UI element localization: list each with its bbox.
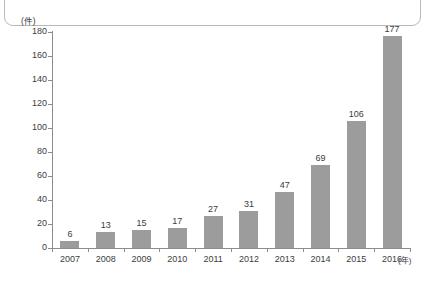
x-axis-tick-label: 2012 (239, 254, 259, 265)
bar-value-label: 106 (349, 109, 364, 120)
x-axis-tick-mark (88, 248, 89, 252)
bar-chart: (件) 020406080100120140160180 61315172731… (0, 0, 425, 282)
x-axis-tick-label: 2009 (131, 254, 151, 265)
bar[interactable] (60, 241, 79, 248)
y-axis-tick-label: 140 (32, 74, 47, 85)
y-axis-tick-label: 180 (32, 26, 47, 37)
y-axis-tick-label: 120 (32, 98, 47, 109)
y-axis-tick-mark (48, 200, 52, 201)
bar[interactable] (347, 121, 366, 248)
y-axis-tick-label: 100 (32, 122, 47, 133)
x-axis-tick-label: 2015 (346, 254, 366, 265)
y-axis-tick-label: 0 (42, 242, 47, 253)
bar-slot: 13 (96, 32, 115, 248)
bar[interactable] (275, 192, 294, 248)
y-axis-tick-label: 20 (37, 218, 47, 229)
y-axis-tick-mark (48, 176, 52, 177)
x-axis-tick-label: 2014 (310, 254, 330, 265)
bar-value-label: 15 (136, 218, 146, 229)
x-axis-tick-label: 2013 (275, 254, 295, 265)
x-axis-tick-mark (303, 248, 304, 252)
x-axis-tick-mark (159, 248, 160, 252)
plot-area: 020406080100120140160180 613151727314769… (52, 32, 410, 248)
bar[interactable] (96, 232, 115, 248)
bar-value-label: 47 (280, 180, 290, 191)
bar-value-label: 13 (101, 220, 111, 231)
x-axis-tick-label: 2011 (203, 254, 222, 265)
bar-slot: 15 (132, 32, 151, 248)
bar-slot: 177 (383, 32, 402, 248)
bar-slot: 47 (275, 32, 294, 248)
x-axis-tick-mark (410, 248, 411, 252)
bar-slot: 17 (168, 32, 187, 248)
x-axis-tick-label: 2007 (60, 254, 80, 265)
x-axis-tick-mark (195, 248, 196, 252)
bar-slot: 69 (311, 32, 330, 248)
y-axis-tick-mark (48, 104, 52, 105)
bar[interactable] (132, 230, 151, 248)
bar-value-label: 27 (208, 204, 218, 215)
y-axis-tick-mark (48, 80, 52, 81)
bar-value-label: 6 (67, 229, 72, 240)
x-axis-unit-label: (年) (398, 255, 411, 266)
bar-value-label: 177 (385, 24, 400, 35)
bar-value-label: 17 (172, 216, 182, 227)
bar-slot: 27 (204, 32, 223, 248)
x-axis-tick-label: 2010 (167, 254, 187, 265)
bar[interactable] (168, 228, 187, 248)
y-axis-tick-label: 60 (37, 170, 47, 181)
bar[interactable] (383, 36, 402, 248)
x-axis-tick-mark (124, 248, 125, 252)
x-axis-tick-mark (338, 248, 339, 252)
x-axis-tick-mark (374, 248, 375, 252)
y-axis-unit-label: (件) (21, 14, 36, 26)
y-axis-tick-mark (48, 224, 52, 225)
y-axis-tick-label: 40 (37, 194, 47, 205)
bar-value-label: 31 (244, 199, 254, 210)
y-axis-tick-mark (48, 128, 52, 129)
y-axis-tick-mark (48, 32, 52, 33)
x-axis-tick-mark (267, 248, 268, 252)
y-axis-tick-mark (48, 56, 52, 57)
x-axis-tick-mark (231, 248, 232, 252)
y-axis-tick-label: 80 (37, 146, 47, 157)
bar[interactable] (239, 211, 258, 248)
x-axis-tick-mark (52, 248, 53, 252)
bar-slot: 31 (239, 32, 258, 248)
bar-slot: 106 (347, 32, 366, 248)
bar-value-label: 69 (315, 153, 325, 164)
y-axis-tick-label: 160 (32, 50, 47, 61)
bar-slot: 6 (60, 32, 79, 248)
bar[interactable] (204, 216, 223, 248)
y-axis-tick-mark (48, 152, 52, 153)
bar[interactable] (311, 165, 330, 248)
x-axis-tick-label: 2008 (96, 254, 116, 265)
